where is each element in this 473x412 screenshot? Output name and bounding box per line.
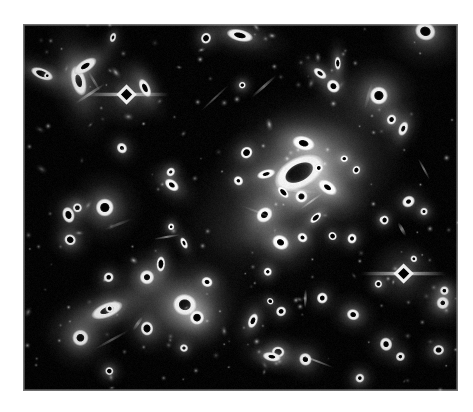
figure-page [0, 0, 473, 412]
astronomical-plate-image [23, 24, 458, 391]
sky-canvas [23, 24, 458, 391]
